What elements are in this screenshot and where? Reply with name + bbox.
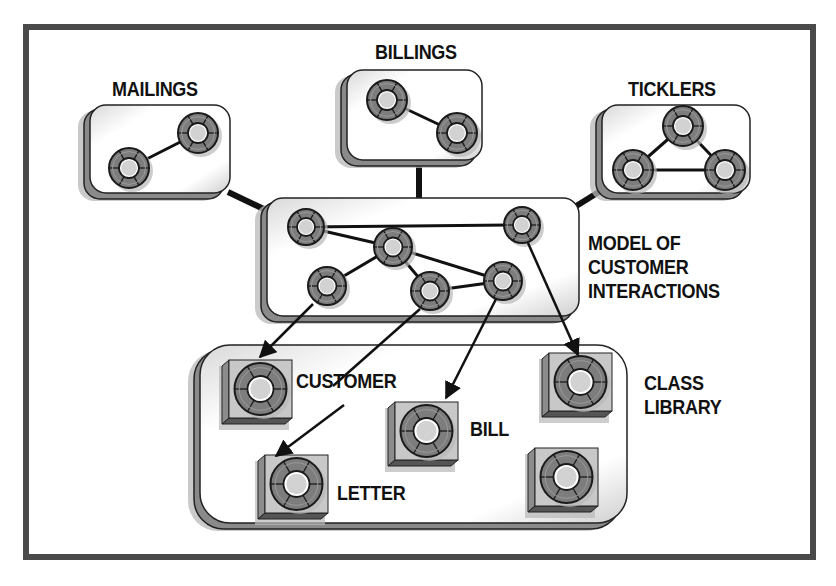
label-customer: CUSTOMER xyxy=(296,370,397,393)
label-billings: BILLINGS xyxy=(375,41,457,64)
label-mailings: MAILINGS xyxy=(112,78,198,101)
class-tile-letter xyxy=(255,455,328,525)
class-tile-customer xyxy=(219,360,292,430)
label-model-of-customer-interactions: MODEL OF CUSTOMER INTERACTIONS xyxy=(588,231,720,303)
label-class-library: CLASS LIBRARY xyxy=(644,371,721,419)
label-ticklers: TICKLERS xyxy=(628,78,716,101)
label-letter: LETTER xyxy=(337,482,405,505)
class-tile-bill xyxy=(385,402,458,472)
label-bill: BILL xyxy=(470,418,509,441)
node-link xyxy=(306,225,522,227)
class-tile-class-bottom-right xyxy=(525,448,598,518)
class-tile-class-top-right xyxy=(539,353,612,423)
